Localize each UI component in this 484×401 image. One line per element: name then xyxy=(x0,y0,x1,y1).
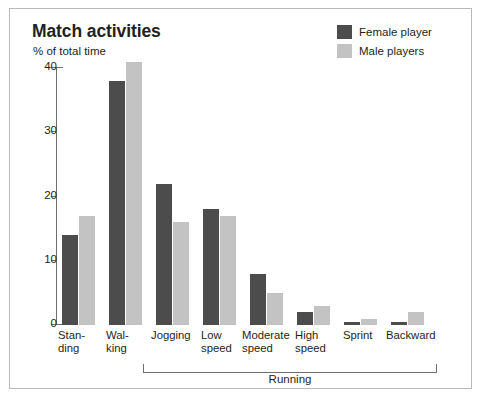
category-label-walking: Wal- king xyxy=(106,329,152,354)
bar-jogging-male-players xyxy=(173,222,189,325)
chart-frame: Match activities % of total time Female … xyxy=(9,8,472,389)
bar-standing-female-player xyxy=(62,235,78,325)
bar-group-standing xyxy=(62,67,96,325)
bar-backward-female-player xyxy=(391,322,407,325)
plot-area: 010203040 Stan- dingWal- kingJoggingLow … xyxy=(10,9,473,390)
bar-walking-male-players xyxy=(126,62,142,325)
bar-moderate-speed-male-players xyxy=(267,293,283,325)
bar-low-speed-male-players xyxy=(220,216,236,325)
running-bracket-label: Running xyxy=(143,373,437,385)
bar-group-walking xyxy=(109,67,143,325)
bar-group-moderate-speed xyxy=(250,67,284,325)
bar-high-speed-female-player xyxy=(297,312,313,325)
bar-group-high-speed xyxy=(297,67,331,325)
bar-sprint-female-player xyxy=(344,322,360,325)
running-bracket xyxy=(143,364,437,373)
bar-moderate-speed-female-player xyxy=(250,274,266,325)
bar-jogging-female-player xyxy=(156,184,172,325)
category-label-high-speed: High speed xyxy=(295,329,341,354)
category-label-jogging: Jogging xyxy=(151,329,205,342)
bar-group-backward xyxy=(391,67,425,325)
bar-group-low-speed xyxy=(203,67,237,325)
bar-backward-male-players xyxy=(408,312,424,325)
category-label-sprint: Sprint xyxy=(343,329,389,342)
bar-high-speed-male-players xyxy=(314,306,330,325)
category-label-moderate-speed: Moderate speed xyxy=(242,329,300,354)
bar-group-jogging xyxy=(156,67,190,325)
bar-standing-male-players xyxy=(79,216,95,325)
bars-layer xyxy=(10,67,473,325)
category-label-backward: Backward xyxy=(386,329,446,342)
bar-sprint-male-players xyxy=(361,319,377,325)
bar-walking-female-player xyxy=(109,81,125,325)
category-label-low-speed: Low speed xyxy=(201,329,247,354)
bar-low-speed-female-player xyxy=(203,209,219,325)
category-label-standing: Stan- ding xyxy=(58,329,104,354)
bar-group-sprint xyxy=(344,67,378,325)
